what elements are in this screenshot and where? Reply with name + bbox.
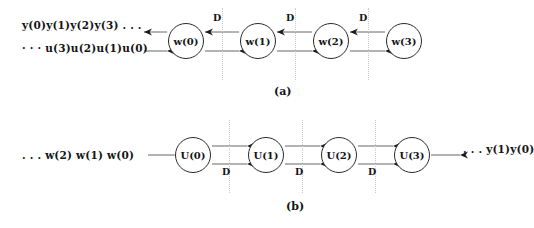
stream-label-b-0: . . . w(2) w(1) w(0): [22, 150, 134, 161]
delay-separator-a-2: [368, 8, 369, 80]
panel-caption-a: (a): [274, 86, 292, 97]
delay-label-b-0: D: [222, 167, 230, 177]
delay-label-b-2: D: [368, 167, 376, 177]
stream-label-a-0: y(0)y(1)y(2)y(3) . . .: [22, 20, 142, 31]
node-w3[interactable]: w(3): [386, 23, 422, 59]
delay-label-a-2: D: [359, 13, 367, 23]
node-label: w(0): [169, 36, 203, 47]
node-w0[interactable]: w(0): [168, 23, 204, 59]
delay-label-a-0: D: [213, 13, 221, 23]
node-label: U(0): [176, 150, 210, 161]
delay-separator-b-0: [229, 120, 230, 193]
node-u1[interactable]: U(1): [248, 137, 284, 173]
node-u2[interactable]: U(2): [321, 137, 357, 173]
stream-label-a-1: · · · u(3)u(2)u(1)u(0): [22, 43, 148, 54]
delay-separator-b-2: [375, 120, 376, 193]
node-label: w(1): [241, 36, 275, 47]
delay-label-a-1: D: [286, 13, 294, 23]
node-label: U(1): [249, 150, 283, 161]
node-label: w(2): [314, 36, 348, 47]
node-w1[interactable]: w(1): [240, 23, 276, 59]
node-u3[interactable]: U(3): [394, 137, 430, 173]
delay-separator-a-0: [222, 8, 223, 80]
panel-caption-b: (b): [286, 201, 304, 212]
node-label: w(3): [387, 36, 421, 47]
stream-label-b-1: . . . y(1)y(0): [463, 144, 534, 155]
node-w2[interactable]: w(2): [313, 23, 349, 59]
node-label: U(2): [322, 150, 356, 161]
delay-label-b-1: D: [295, 167, 303, 177]
node-label: U(3): [395, 150, 429, 161]
delay-separator-b-1: [302, 120, 303, 193]
node-u0[interactable]: U(0): [175, 137, 211, 173]
delay-separator-a-1: [295, 8, 296, 80]
